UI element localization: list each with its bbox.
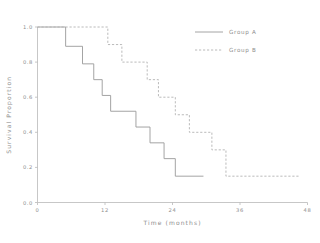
y-tick-label: 1.0 [23, 24, 33, 30]
x-tick-label: 0 [36, 207, 40, 213]
legend-label-group-a: Group A [229, 29, 257, 36]
x-tick-label: 36 [236, 207, 244, 213]
x-tick-label: 12 [101, 207, 109, 213]
chart-canvas: 0122436480.00.20.40.60.81.0Time (months)… [0, 0, 320, 243]
x-axis-title: Time (months) [142, 219, 201, 226]
y-tick-label: 0.0 [23, 200, 33, 206]
y-tick-label: 0.2 [23, 164, 33, 170]
y-axis-title: Survival Proportion [5, 76, 13, 154]
legend-label-group-b: Group B [229, 47, 257, 54]
series-line-group-a [38, 27, 204, 176]
y-tick-label: 0.4 [23, 129, 33, 135]
y-tick-label: 0.8 [23, 59, 33, 65]
series-line-group-b [38, 27, 300, 176]
y-tick-label: 0.6 [23, 94, 33, 100]
x-tick-label: 24 [169, 207, 177, 213]
survival-curve-chart: 0122436480.00.20.40.60.81.0Time (months)… [0, 0, 320, 243]
x-tick-label: 48 [304, 207, 312, 213]
